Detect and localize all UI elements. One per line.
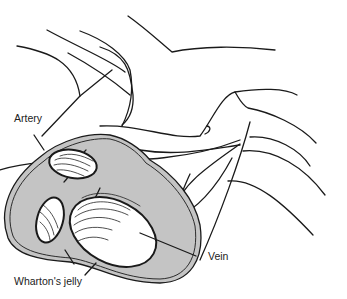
artery-leader-line <box>34 135 44 150</box>
artery-label: Artery <box>14 113 42 124</box>
vein-label: Vein <box>208 251 228 262</box>
wharton-jelly-label: Wharton's jelly <box>14 276 82 287</box>
umbilical-cord-diagram: Artery Vein Wharton's jelly <box>0 0 347 299</box>
cord-illustration <box>0 0 347 299</box>
